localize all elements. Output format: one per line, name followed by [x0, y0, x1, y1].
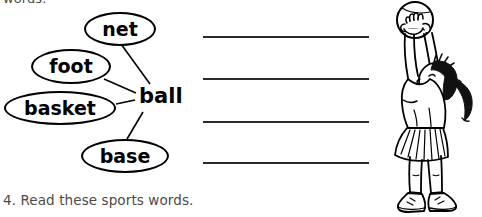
- instruction-caption: 4. Read these sports words.: [3, 192, 193, 208]
- answer-line-1[interactable]: [203, 36, 369, 38]
- word-bubble-net-label: net: [102, 20, 138, 39]
- word-bubble-base-label: base: [100, 147, 151, 166]
- answer-line-3[interactable]: [203, 121, 369, 123]
- answer-line-2[interactable]: [203, 78, 369, 80]
- word-web-center-word: ball: [139, 86, 183, 107]
- girl-holding-ball-illustration: [374, 0, 482, 217]
- word-bubble-foot[interactable]: foot: [31, 49, 111, 84]
- answer-line-4[interactable]: [203, 162, 369, 164]
- word-bubble-foot-label: foot: [49, 57, 92, 76]
- word-bubble-basket[interactable]: basket: [4, 91, 116, 125]
- word-bubble-base[interactable]: base: [81, 139, 169, 173]
- girl-holding-ball-drawing: [374, 0, 482, 217]
- word-bubble-net[interactable]: net: [84, 12, 156, 46]
- word-bubble-basket-label: basket: [24, 99, 96, 118]
- worksheet-page: words. net foot basket base ball: [0, 0, 482, 217]
- word-web-diagram: net foot basket base ball: [0, 0, 200, 180]
